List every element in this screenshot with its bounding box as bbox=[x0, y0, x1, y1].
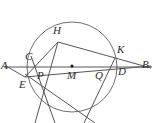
center-point-marker-M bbox=[70, 64, 73, 67]
point-label-P: P bbox=[37, 70, 44, 81]
point-label-B: B bbox=[142, 59, 149, 70]
point-label-K: K bbox=[117, 44, 124, 55]
point-label-Q: Q bbox=[95, 70, 103, 81]
segment-AE bbox=[6, 66, 25, 77]
point-label-E: E bbox=[19, 79, 26, 90]
geometry-figure: A B C D E H K M P Q bbox=[0, 0, 158, 123]
geometry-canvas bbox=[0, 0, 158, 123]
point-label-C: C bbox=[25, 51, 32, 62]
point-label-H: H bbox=[53, 25, 61, 36]
point-label-A: A bbox=[1, 60, 8, 71]
segment-HKB bbox=[58, 42, 151, 68]
point-label-D: D bbox=[118, 66, 126, 77]
segment-E-down-right bbox=[25, 74, 95, 123]
point-label-M: M bbox=[67, 70, 76, 81]
